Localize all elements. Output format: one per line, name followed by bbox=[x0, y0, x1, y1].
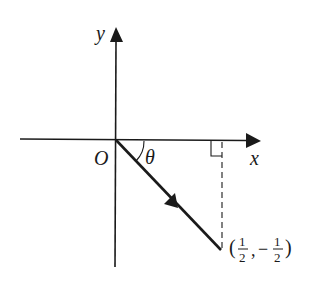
angle-label: θ bbox=[145, 146, 155, 168]
vector bbox=[116, 140, 221, 250]
point-paren-open: ( bbox=[229, 236, 236, 259]
coordinate-diagram: y x O θ ( 1 2 , − 1 2 ) bbox=[0, 0, 319, 284]
vector-arrowhead-icon bbox=[164, 193, 178, 208]
point-y-denominator: 2 bbox=[274, 250, 281, 265]
right-angle-marker bbox=[211, 141, 222, 156]
angle-arc bbox=[136, 141, 144, 161]
x-axis-label: x bbox=[249, 147, 259, 169]
x-axis bbox=[20, 133, 261, 148]
point-separator: , bbox=[251, 240, 256, 260]
point-x-numerator: 1 bbox=[239, 234, 246, 249]
x-axis-arrow-icon bbox=[246, 133, 261, 148]
point-y-numerator: 1 bbox=[274, 234, 281, 249]
y-axis-label: y bbox=[94, 22, 105, 45]
point-x-denominator: 2 bbox=[239, 250, 246, 265]
point-label: ( 1 2 , − 1 2 ) bbox=[229, 234, 292, 265]
point-y-sign: − bbox=[258, 239, 268, 259]
origin-label: O bbox=[94, 147, 108, 169]
y-axis-arrow-icon bbox=[110, 27, 123, 42]
point-paren-close: ) bbox=[285, 236, 292, 259]
